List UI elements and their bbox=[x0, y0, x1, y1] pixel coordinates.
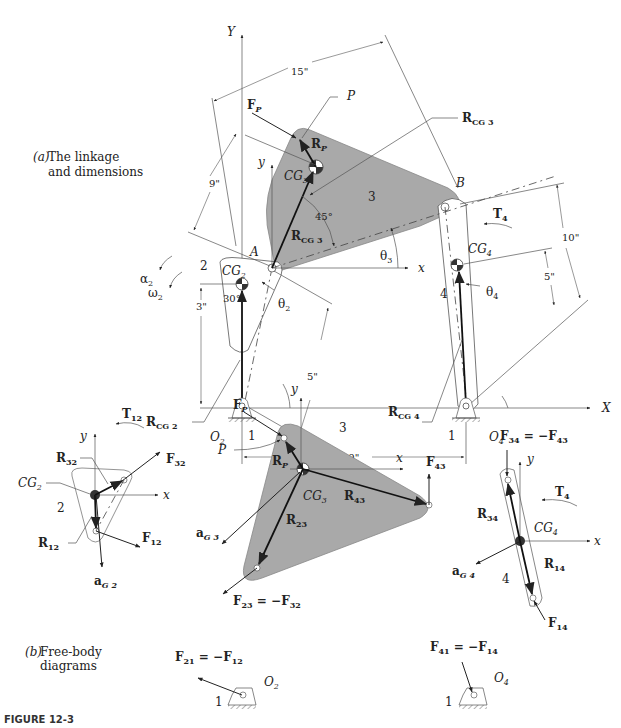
part-a-title-1: The linkage bbox=[48, 150, 119, 164]
t4-label: T4 bbox=[493, 207, 508, 223]
theta3-label: θ3 bbox=[380, 249, 392, 265]
t12-label: T12 bbox=[122, 407, 142, 423]
theta4-label: θ4 bbox=[486, 285, 498, 301]
f32-arrow bbox=[122, 452, 160, 481]
f23-arrow bbox=[223, 568, 257, 594]
fbd-ground-o2: F21 = −F12 O2 1 bbox=[175, 650, 279, 709]
cg4-label: CG4 bbox=[468, 242, 492, 258]
omega2-label: ω2 bbox=[148, 286, 163, 302]
angle-45-label: 45° bbox=[315, 211, 333, 222]
fbd3-p-label: P bbox=[217, 443, 227, 457]
fbd2-y-label: y bbox=[79, 429, 87, 443]
link-2-number: 2 bbox=[200, 259, 208, 273]
f32-label: F32 bbox=[166, 452, 186, 468]
f12-arrow bbox=[96, 531, 140, 547]
r12-vector bbox=[95, 495, 96, 528]
r-cg4-callout: RCG 4 bbox=[388, 405, 420, 421]
dim-15: 15" bbox=[291, 66, 308, 77]
fbd-ground-o4: F41 = −F14 O4 1 bbox=[430, 640, 509, 709]
dim-10: 10" bbox=[562, 232, 579, 243]
fbd4-t4-label: T4 bbox=[555, 485, 570, 501]
link-4-number: 4 bbox=[440, 287, 448, 301]
t12-arrow bbox=[116, 423, 144, 428]
local-x-label: x bbox=[418, 261, 425, 275]
fbd-o2-ground-number: 1 bbox=[215, 695, 223, 709]
part-b-title-1: Free-body bbox=[40, 645, 102, 659]
ag3-label: aG 3 bbox=[196, 526, 219, 542]
fbd2-cg-label: CG2 bbox=[18, 476, 42, 492]
ext-line-10b bbox=[470, 300, 588, 404]
coupler-link-3 bbox=[266, 128, 459, 272]
theta2-label: θ2 bbox=[278, 297, 290, 313]
fbd3-y-label: y bbox=[290, 382, 298, 396]
rocker-link-4 bbox=[438, 198, 478, 410]
theta2-arc bbox=[283, 384, 290, 408]
f21-equation: F21 = −F12 bbox=[175, 650, 243, 666]
fbd-o4-ground-number: 1 bbox=[445, 695, 453, 709]
fbd3-x-label: x bbox=[396, 451, 403, 465]
point-P-label: P bbox=[346, 89, 356, 103]
fbd4-x-label: x bbox=[594, 534, 601, 548]
r-cg3-callout: RCG 3 bbox=[462, 111, 494, 127]
fbd-o2-label: O2 bbox=[264, 675, 279, 691]
point-B-label: B bbox=[455, 176, 465, 190]
part-a-linkage: (a) The linkage and dimensions Y X 3 B 4… bbox=[33, 25, 611, 464]
dim-3: 3" bbox=[196, 301, 207, 312]
point-A-label: A bbox=[249, 245, 259, 259]
r-cg2-leader bbox=[192, 360, 240, 422]
ground-link-1-left: 1 bbox=[248, 429, 256, 443]
ag4-arrow bbox=[476, 542, 519, 564]
figure-caption: FIGURE 12-3 bbox=[4, 714, 74, 725]
f34-equation: F34 = −F43 bbox=[500, 429, 568, 445]
theta4-arc bbox=[502, 396, 508, 408]
angle-30-label: 30° bbox=[223, 293, 241, 304]
part-a-title-2: and dimensions bbox=[48, 165, 143, 179]
fbd-link-3-shape bbox=[243, 424, 428, 580]
ext-line-15b bbox=[385, 35, 458, 188]
fbd-link-4: F34 = −F43 y x R34 R14 CG4 T4 aG 4 4 F14 bbox=[452, 429, 601, 632]
dim-5-rocker: 5" bbox=[544, 271, 555, 282]
fbd4-t4-arrow bbox=[542, 500, 577, 506]
fbd3-number: 3 bbox=[339, 421, 347, 435]
part-b-title-2: diagrams bbox=[40, 659, 97, 673]
ext-line-10a bbox=[460, 183, 564, 204]
f23-equation: F23 = −F32 bbox=[233, 594, 301, 610]
f41-equation: F41 = −F14 bbox=[430, 640, 498, 656]
r14-label: R14 bbox=[544, 557, 566, 573]
f41-arrow bbox=[462, 662, 472, 692]
omega2-arrow bbox=[170, 272, 182, 288]
alpha2-arrow bbox=[160, 256, 172, 270]
f21-arrow bbox=[198, 678, 242, 695]
ag2-label: aG 2 bbox=[94, 574, 117, 590]
global-x-label: X bbox=[601, 401, 611, 415]
f14-label: F14 bbox=[548, 616, 568, 632]
fbd4-cg-label: CG4 bbox=[534, 521, 558, 537]
dim-5-crank: 5" bbox=[307, 371, 318, 382]
f12-label: F12 bbox=[142, 531, 162, 547]
r-cg2-callout: RCG 2 bbox=[146, 415, 178, 431]
fbd4-y-label: y bbox=[526, 452, 534, 466]
fbd-link-2: T12 y x F32 R32 CG2 2 F12 R12 aG 2 bbox=[18, 407, 186, 590]
f43-label: F43 bbox=[426, 455, 446, 471]
fbd2-number: 2 bbox=[57, 501, 65, 515]
r34-label: R34 bbox=[477, 507, 499, 523]
fbd2-x-label: x bbox=[163, 488, 170, 502]
fp-label: FP bbox=[247, 98, 263, 114]
dim-9: 9" bbox=[209, 178, 220, 189]
ext-line-15a bbox=[212, 98, 236, 246]
r12-label: R12 bbox=[38, 536, 59, 552]
global-y-label: Y bbox=[227, 25, 236, 39]
fp-force-arrow bbox=[252, 113, 296, 138]
fbd4-number: 4 bbox=[502, 572, 510, 586]
link-3-number: 3 bbox=[368, 190, 376, 204]
local-y-label: y bbox=[257, 155, 265, 169]
figure-canvas: (a) The linkage and dimensions Y X 3 B 4… bbox=[0, 0, 621, 728]
r32-label: R32 bbox=[56, 451, 77, 467]
fbd-o4-label: O4 bbox=[494, 671, 509, 687]
t4-arrow bbox=[484, 224, 512, 229]
ag4-label: aG 4 bbox=[452, 564, 475, 580]
ground-link-1-right: 1 bbox=[448, 429, 456, 443]
